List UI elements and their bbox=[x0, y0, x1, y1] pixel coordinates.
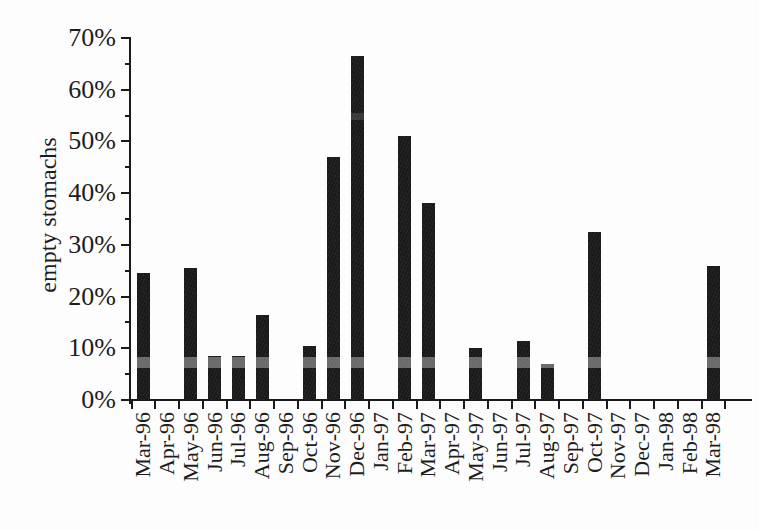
bar-oct-96 bbox=[303, 346, 316, 400]
bar-dec-96 bbox=[351, 56, 364, 400]
y-tick-label: 50% bbox=[46, 126, 116, 156]
x-tick-label: Jun-96 bbox=[203, 412, 227, 522]
x-tick bbox=[558, 400, 560, 409]
x-tick-label: Nov-96 bbox=[321, 412, 345, 522]
scan-artifact-stripe bbox=[422, 357, 435, 368]
scan-artifact-stripe bbox=[517, 357, 530, 368]
bar-aug-97 bbox=[541, 364, 554, 400]
x-tick-label: Sep-96 bbox=[274, 412, 298, 522]
x-tick-label: Dec-97 bbox=[630, 412, 654, 522]
x-tick-label: Sep-97 bbox=[559, 412, 583, 522]
y-minor-tick bbox=[125, 115, 131, 117]
y-tick-label: 0% bbox=[46, 385, 116, 415]
y-tick-label: 10% bbox=[46, 333, 116, 363]
x-tick bbox=[534, 400, 536, 409]
bar-feb-97 bbox=[398, 136, 411, 400]
x-tick bbox=[487, 400, 489, 409]
x-tick bbox=[677, 400, 679, 409]
x-tick-label: Jan-98 bbox=[654, 412, 678, 522]
y-major-tick bbox=[121, 244, 131, 246]
x-tick bbox=[297, 400, 299, 409]
x-tick bbox=[629, 400, 631, 409]
x-tick-label: Nov-97 bbox=[606, 412, 630, 522]
y-minor-tick bbox=[125, 63, 131, 65]
x-tick bbox=[273, 400, 275, 409]
x-tick-label: Mar-98 bbox=[701, 412, 725, 522]
x-tick-label: Aug-97 bbox=[535, 412, 559, 522]
x-tick bbox=[392, 400, 394, 409]
y-minor-tick bbox=[125, 373, 131, 375]
bar-may-97 bbox=[469, 348, 482, 400]
x-tick-label: Oct-96 bbox=[298, 412, 322, 522]
scan-artifact-stripe-faint bbox=[351, 113, 364, 120]
x-tick bbox=[653, 400, 655, 409]
scan-artifact-stripe bbox=[469, 357, 482, 368]
y-tick-label: 70% bbox=[46, 23, 116, 53]
scan-artifact-stripe bbox=[707, 357, 720, 368]
x-tick bbox=[226, 400, 228, 409]
x-tick bbox=[463, 400, 465, 409]
y-major-tick bbox=[121, 399, 131, 401]
x-tick bbox=[368, 400, 370, 409]
x-tick-label: Dec-96 bbox=[345, 412, 369, 522]
x-tick-label: Aug-96 bbox=[250, 412, 274, 522]
y-tick-label: 20% bbox=[46, 282, 116, 312]
bar-jul-96 bbox=[232, 356, 245, 400]
scan-artifact-stripe bbox=[398, 357, 411, 368]
x-tick-label: May-96 bbox=[179, 412, 203, 522]
x-tick bbox=[202, 400, 204, 409]
bar-nov-96 bbox=[327, 157, 340, 400]
x-tick-label: Jun-97 bbox=[488, 412, 512, 522]
bar-mar-97 bbox=[422, 203, 435, 400]
x-tick bbox=[701, 400, 703, 409]
y-major-tick bbox=[121, 296, 131, 298]
bar-jun-96 bbox=[208, 356, 221, 400]
y-major-tick bbox=[121, 140, 131, 142]
scan-artifact-stripe bbox=[184, 357, 197, 368]
scan-artifact-stripe bbox=[541, 364, 554, 368]
y-major-tick bbox=[121, 192, 131, 194]
x-tick-label: May-97 bbox=[464, 412, 488, 522]
x-tick-label: Jan-97 bbox=[369, 412, 393, 522]
x-tick bbox=[582, 400, 584, 409]
scan-artifact-stripe bbox=[256, 357, 269, 368]
y-tick-label: 30% bbox=[46, 230, 116, 260]
x-tick bbox=[344, 400, 346, 409]
y-major-tick bbox=[121, 89, 131, 91]
scan-artifact-stripe bbox=[137, 357, 150, 368]
x-tick bbox=[154, 400, 156, 409]
x-tick-label: Jul-97 bbox=[511, 412, 535, 522]
x-tick bbox=[606, 400, 608, 409]
x-tick-label: Oct-97 bbox=[583, 412, 607, 522]
x-tick bbox=[131, 400, 133, 409]
y-tick-label: 60% bbox=[46, 75, 116, 105]
scan-artifact-stripe bbox=[351, 357, 364, 368]
bar-may-96 bbox=[184, 268, 197, 400]
scan-artifact-stripe bbox=[208, 357, 221, 368]
x-tick bbox=[249, 400, 251, 409]
y-minor-tick bbox=[125, 218, 131, 220]
scan-artifact-stripe bbox=[588, 357, 601, 368]
y-minor-tick bbox=[125, 321, 131, 323]
x-tick-label: Jul-96 bbox=[226, 412, 250, 522]
bar-jul-97 bbox=[517, 341, 530, 400]
x-tick bbox=[178, 400, 180, 409]
x-tick bbox=[724, 400, 726, 409]
x-tick-label: Apr-96 bbox=[155, 412, 179, 522]
empty-stomachs-bar-chart: empty stomachs 0%10%20%30%40%50%60%70%Ma… bbox=[0, 0, 759, 530]
x-tick-label: Mar-97 bbox=[416, 412, 440, 522]
bar-aug-96 bbox=[256, 315, 269, 400]
bar-oct-97 bbox=[588, 232, 601, 400]
x-tick-label: Feb-97 bbox=[393, 412, 417, 522]
bar-mar-96 bbox=[137, 273, 150, 400]
scan-artifact-stripe bbox=[303, 357, 316, 368]
y-tick-label: 40% bbox=[46, 178, 116, 208]
scan-artifact-stripe bbox=[232, 357, 245, 368]
x-tick bbox=[416, 400, 418, 409]
y-major-tick bbox=[121, 347, 131, 349]
x-tick bbox=[321, 400, 323, 409]
x-tick-label: Feb-98 bbox=[678, 412, 702, 522]
scan-artifact-stripe bbox=[327, 357, 340, 368]
y-major-tick bbox=[121, 37, 131, 39]
x-tick-label: Apr-97 bbox=[440, 412, 464, 522]
